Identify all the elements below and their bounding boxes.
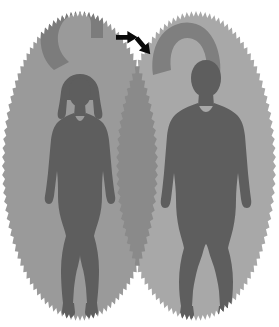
male-hair <box>191 60 221 97</box>
female-neck <box>74 104 86 116</box>
figure-container: Two overlapping oval-shaped panels, each… <box>0 0 279 327</box>
male-neck <box>198 93 214 106</box>
female-head <box>69 78 91 107</box>
figure-canvas <box>0 0 279 327</box>
